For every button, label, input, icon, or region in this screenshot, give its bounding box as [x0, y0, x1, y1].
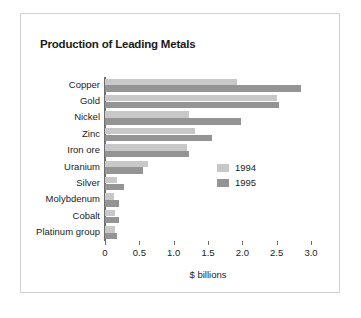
bar-1995-nickel — [105, 118, 241, 124]
x-tick — [311, 241, 312, 245]
x-tick-label: 0 — [102, 247, 107, 258]
category-label: Molybdenum — [46, 193, 100, 205]
category-label: Zinc — [82, 128, 100, 140]
bar-row: Iron ore — [105, 143, 311, 159]
x-axis: 00.51.01.52.02.53.0 — [105, 241, 311, 271]
bar-row: Molybdenum — [105, 192, 311, 208]
bar-1994-gold — [105, 95, 277, 101]
bar-1995-silver — [105, 184, 124, 190]
category-label: Cobalt — [73, 210, 100, 222]
x-tick-label: 0.5 — [133, 247, 146, 258]
bar-1994-silver — [105, 177, 117, 183]
bar-row: Silver — [105, 175, 311, 191]
bar-1994-cobalt — [105, 210, 115, 216]
category-label: Nickel — [74, 111, 100, 123]
bar-row: Uranium — [105, 159, 311, 175]
x-tick — [208, 241, 209, 245]
bar-1995-uranium — [105, 167, 143, 173]
bar-1995-cobalt — [105, 217, 119, 223]
bar-1995-zinc — [105, 135, 212, 141]
bar-1995-copper — [105, 85, 301, 91]
chart-legend: 19941995 — [217, 160, 256, 190]
x-tick-label: 1.0 — [167, 247, 180, 258]
category-label: Platinum group — [36, 226, 100, 238]
bar-1995-molybdenum — [105, 200, 119, 206]
x-tick — [139, 241, 140, 245]
bar-1994-copper — [105, 79, 237, 85]
bar-1994-molybdenum — [105, 193, 114, 199]
bar-1994-iron-ore — [105, 144, 187, 150]
bar-row: Gold — [105, 93, 311, 109]
bar-row: Cobalt — [105, 208, 311, 224]
bar-row: Copper — [105, 77, 311, 93]
category-label: Iron ore — [67, 144, 100, 156]
bar-row: Nickel — [105, 110, 311, 126]
legend-label: 1994 — [235, 162, 256, 173]
bar-1994-nickel — [105, 111, 189, 117]
legend-swatch-icon — [217, 179, 229, 187]
bar-1995-platinum-group — [105, 233, 117, 239]
chart-figure: Production of Leading Metals CopperGoldN… — [20, 13, 340, 293]
x-tick — [174, 241, 175, 245]
bar-row: Zinc — [105, 126, 311, 142]
category-label: Silver — [76, 177, 100, 189]
x-tick — [242, 241, 243, 245]
bar-row: Platinum group — [105, 225, 311, 241]
bar-1994-uranium — [105, 161, 148, 167]
bar-1994-platinum-group — [105, 226, 115, 232]
legend-item-1995: 1995 — [217, 175, 256, 190]
chart-title: Production of Leading Metals — [40, 38, 195, 50]
legend-swatch-icon — [217, 164, 229, 172]
x-tick-label: 2.5 — [270, 247, 283, 258]
bar-1994-zinc — [105, 128, 195, 134]
x-tick-label: 2.0 — [236, 247, 249, 258]
bar-1995-iron-ore — [105, 151, 189, 157]
x-tick-label: 1.5 — [201, 247, 214, 258]
x-axis-title: $ billions — [105, 269, 311, 280]
category-label: Gold — [80, 95, 100, 107]
plot-area: CopperGoldNickelZincIron oreUraniumSilve… — [105, 77, 311, 241]
x-tick — [277, 241, 278, 245]
category-label: Copper — [69, 79, 100, 91]
bar-1995-gold — [105, 102, 279, 108]
x-tick — [105, 241, 106, 245]
category-label: Uranium — [64, 161, 100, 173]
legend-item-1994: 1994 — [217, 160, 256, 175]
legend-label: 1995 — [235, 177, 256, 188]
x-tick-label: 3.0 — [304, 247, 317, 258]
